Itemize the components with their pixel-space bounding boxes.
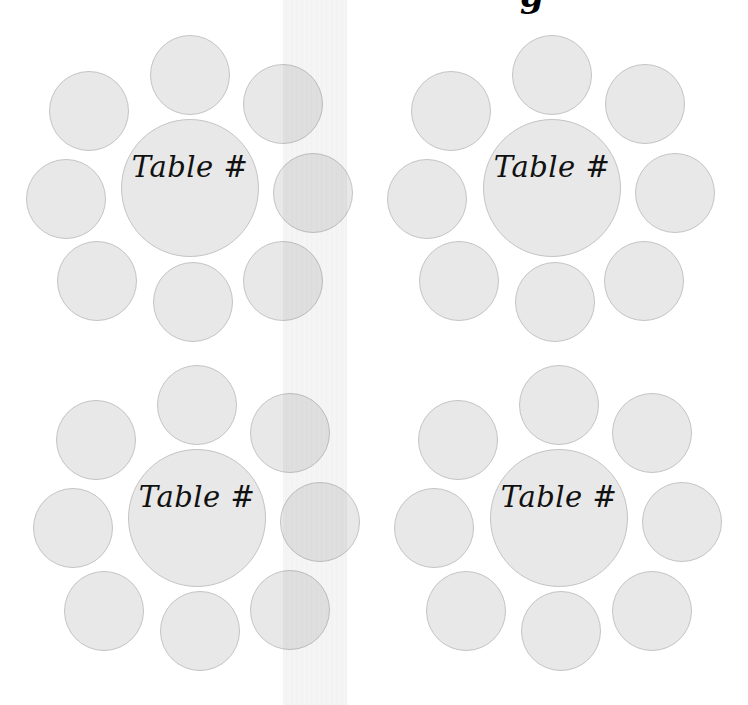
table-circle: Table # [483,119,621,257]
seat-circle [26,159,106,239]
seat-circle [273,153,353,233]
seat-circle [642,482,722,562]
seat-circle [521,591,601,671]
seat-circle [612,393,692,473]
table-label: Table # [484,150,620,184]
table-circle: Table # [128,449,266,587]
seat-circle [635,153,715,233]
seat-circle [515,262,595,342]
seat-circle [605,64,685,144]
seat-circle [56,400,136,480]
seat-circle [243,64,323,144]
seating-chart: g Table # Table # Table # Table # [0,0,748,705]
seat-circle [387,159,467,239]
table-label: Table # [129,480,265,514]
seat-circle [160,591,240,671]
seat-circle [33,488,113,568]
table-label: Table # [491,480,627,514]
seat-circle [411,71,491,151]
title-fragment: g [520,0,544,12]
table-circle: Table # [121,119,259,257]
seat-circle [280,482,360,562]
seat-circle [64,571,144,651]
seat-circle [426,571,506,651]
seat-circle [157,365,237,445]
seat-circle [604,241,684,321]
seat-circle [612,571,692,651]
seat-circle [250,393,330,473]
seat-circle [49,71,129,151]
seat-circle [250,570,330,650]
seat-circle [419,241,499,321]
seat-circle [519,365,599,445]
seat-circle [150,35,230,115]
seat-circle [243,241,323,321]
seat-circle [394,488,474,568]
table-label: Table # [122,150,258,184]
table-circle: Table # [490,449,628,587]
seat-circle [153,262,233,342]
seat-circle [57,241,137,321]
seat-circle [418,400,498,480]
seat-circle [512,35,592,115]
